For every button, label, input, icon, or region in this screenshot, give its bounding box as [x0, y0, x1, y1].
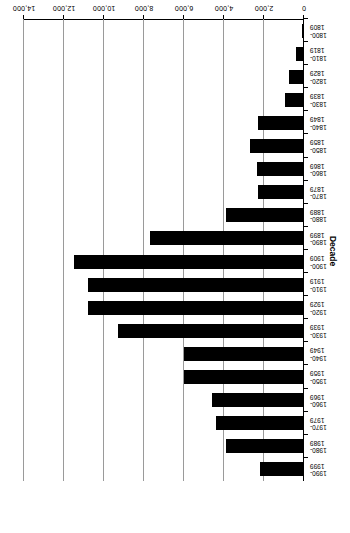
category-label-line: 1889 [310, 208, 344, 216]
category-label-line: 1980- [310, 447, 344, 455]
category-axis-tick [304, 318, 308, 319]
bar-row [24, 135, 304, 158]
value-axis-tick-label: 14,000 [4, 5, 44, 12]
category-label-line: 1850- [310, 146, 344, 154]
category-label-line: 1820- [310, 77, 344, 85]
category-axis-tick [304, 388, 308, 389]
bar [226, 439, 304, 453]
category-label-line: 1930- [310, 331, 344, 339]
category-label-line: 1810- [310, 54, 344, 62]
category-label-line: 1869 [310, 162, 344, 170]
bar [150, 231, 304, 245]
bar-row [24, 181, 304, 204]
category-label-line: 1849 [310, 116, 344, 124]
category-axis-title: Decade [328, 236, 338, 266]
bar [118, 324, 304, 338]
category-label-line: 1860- [310, 170, 344, 178]
category-label-line: 1999 [310, 462, 344, 470]
bar-chart-figure: 02,0004,0006,0008,00010,00012,00014,000 … [0, 0, 350, 533]
bar [296, 47, 304, 61]
category-axis-tick [304, 133, 308, 134]
value-axis-tick-label: 0 [284, 5, 324, 12]
category-label-line: 1939 [310, 324, 344, 332]
bar-row [24, 42, 304, 65]
category-label-line: 1880- [310, 216, 344, 224]
category-axis-tick [304, 364, 308, 365]
category-label-line: 1910- [310, 285, 344, 293]
value-axis-tick-label: 12,000 [44, 5, 84, 12]
category-axis-tick [304, 180, 308, 181]
bar-row [24, 204, 304, 227]
bar [212, 393, 304, 407]
category-label-line: 1969 [310, 393, 344, 401]
value-axis-tick-label: 6,000 [164, 5, 204, 12]
category-axis-tick-label: 1800-1809 [310, 23, 344, 38]
category-label-line: 1960- [310, 401, 344, 409]
bar-row [24, 412, 304, 435]
bar-row [24, 296, 304, 319]
value-axis-tick-label: 2,000 [244, 5, 284, 12]
category-axis-tick-label: 1810-1819 [310, 46, 344, 61]
category-axis-tick [304, 434, 308, 435]
category-label-line: 1870- [310, 193, 344, 201]
category-axis-tick-label: 1850-1859 [310, 139, 344, 154]
category-axis-tick-label: 1820-1829 [310, 70, 344, 85]
category-label-line: 1970- [310, 424, 344, 432]
bar-row [24, 227, 304, 250]
bar-row [24, 458, 304, 481]
bar-row [24, 111, 304, 134]
bar-row [24, 389, 304, 412]
category-label-line: 1920- [310, 308, 344, 316]
bar [257, 162, 304, 176]
category-label-line: 1989 [310, 439, 344, 447]
category-label-line: 1919 [310, 277, 344, 285]
category-axis-tick-label: 1880-1889 [310, 208, 344, 223]
category-axis-tick-label: 1910-1919 [310, 277, 344, 292]
category-axis-tick-label: 1990-1999 [310, 462, 344, 477]
bar-row [24, 435, 304, 458]
bar-row [24, 158, 304, 181]
bar [285, 93, 304, 107]
bar [258, 185, 304, 199]
category-axis-tick-label: 1940-1949 [310, 347, 344, 362]
category-axis-tick [304, 457, 308, 458]
category-axis-tick [304, 87, 308, 88]
category-axis-tick [304, 157, 308, 158]
bar-row [24, 342, 304, 365]
category-axis-tick [304, 110, 308, 111]
category-axis-tick [304, 249, 308, 250]
bar [184, 347, 304, 361]
category-label-line: 1830- [310, 100, 344, 108]
bar-row [24, 19, 304, 42]
bar [74, 255, 304, 269]
bar [250, 139, 304, 153]
bar-row [24, 273, 304, 296]
category-axis-tick [304, 341, 308, 342]
value-axis-tick-label: 4,000 [204, 5, 244, 12]
bar [184, 370, 304, 384]
category-label-line: 1940- [310, 354, 344, 362]
bar [302, 24, 304, 38]
category-axis-tick [304, 18, 308, 19]
category-axis-tick-label: 1960-1969 [310, 393, 344, 408]
category-axis-tick-label: 1980-1989 [310, 439, 344, 454]
bar [226, 208, 304, 222]
bar [258, 116, 304, 130]
category-label-line: 1829 [310, 70, 344, 78]
category-axis-tick-label: 1840-1849 [310, 116, 344, 131]
category-axis-tick-label: 1930-1939 [310, 324, 344, 339]
value-axis-tick-label: 8,000 [124, 5, 164, 12]
bar [216, 416, 304, 430]
category-axis-tick-label: 1970-1979 [310, 416, 344, 431]
category-axis-tick [304, 272, 308, 273]
category-label-line: 1819 [310, 46, 344, 54]
category-label-line: 1950- [310, 377, 344, 385]
category-label-line: 1959 [310, 370, 344, 378]
bar-row [24, 366, 304, 389]
category-axis-tick-label: 1870-1879 [310, 185, 344, 200]
bar-row [24, 250, 304, 273]
category-label-line: 1929 [310, 301, 344, 309]
bar-row [24, 88, 304, 111]
bar-row [24, 65, 304, 88]
bar [88, 278, 304, 292]
